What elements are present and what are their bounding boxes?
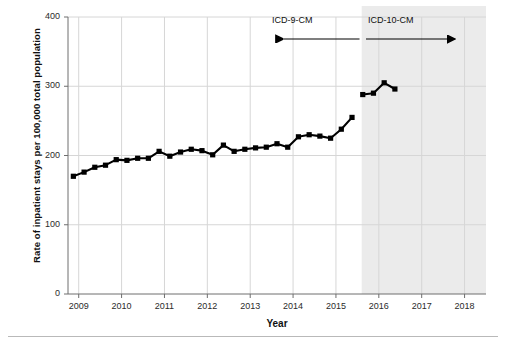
x-tick-label: 2017	[400, 301, 444, 311]
x-axis-title: Year	[68, 318, 486, 329]
y-tick-label: 200	[26, 150, 60, 160]
data-point-marker	[81, 170, 86, 175]
x-tick-label: 2014	[271, 301, 315, 311]
data-point-marker	[360, 92, 365, 97]
data-point-marker	[317, 134, 322, 139]
data-point-marker	[253, 145, 258, 150]
x-tick-label: 2009	[57, 301, 101, 311]
data-point-marker	[232, 149, 237, 154]
data-point-marker	[146, 156, 151, 161]
data-point-marker	[307, 132, 312, 137]
data-point-marker	[114, 157, 119, 162]
data-point-marker	[157, 149, 162, 154]
icd10-shaded-region	[362, 6, 486, 294]
y-tick-marks	[64, 17, 68, 294]
x-tick-label: 2010	[100, 301, 144, 311]
y-tick-label: 100	[26, 219, 60, 229]
data-point-marker	[371, 91, 376, 96]
data-point-marker	[274, 141, 279, 146]
data-point-marker	[135, 156, 140, 161]
data-point-marker	[264, 145, 269, 150]
data-point-marker	[189, 147, 194, 152]
data-point-marker	[167, 154, 172, 159]
data-point-marker	[296, 134, 301, 139]
x-tick-label: 2018	[443, 301, 487, 311]
data-point-marker	[221, 143, 226, 148]
data-point-marker	[103, 163, 108, 168]
x-tick-label: 2011	[142, 301, 186, 311]
x-tick-label: 2015	[314, 301, 358, 311]
chart-plot-area	[0, 0, 506, 347]
y-axis-title: Rate of inpatient stays per 100,000 tota…	[31, 6, 42, 286]
x-tick-label: 2012	[185, 301, 229, 311]
data-point-marker	[349, 115, 354, 120]
icd10-era-label: ICD-10-CM	[368, 15, 414, 25]
data-point-marker	[285, 145, 290, 150]
chart-figure: Rate of inpatient stays per 100,000 tota…	[0, 0, 506, 347]
y-tick-label: 300	[26, 80, 60, 90]
data-point-marker	[392, 86, 397, 91]
x-tick-label: 2013	[228, 301, 272, 311]
footer-divider	[8, 336, 498, 337]
data-point-marker	[328, 136, 333, 141]
y-tick-label: 400	[26, 11, 60, 21]
x-tick-marks	[79, 294, 465, 298]
data-point-marker	[382, 80, 387, 85]
data-point-marker	[71, 174, 76, 179]
x-tick-label: 2016	[357, 301, 401, 311]
data-point-marker	[199, 148, 204, 153]
y-tick-label: 0	[26, 288, 60, 298]
data-point-marker	[210, 152, 215, 157]
data-point-marker	[178, 149, 183, 154]
data-point-marker	[339, 127, 344, 132]
data-point-marker	[124, 158, 129, 163]
data-point-marker	[242, 147, 247, 152]
data-point-marker	[92, 165, 97, 170]
icd9-era-label: ICD-9-CM	[272, 15, 313, 25]
